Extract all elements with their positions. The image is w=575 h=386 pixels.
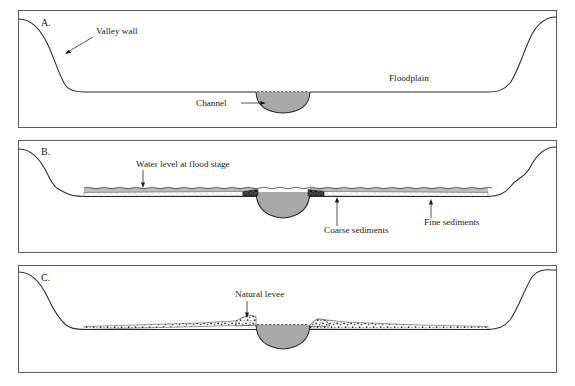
panel-c: C. Natural levee bbox=[19, 266, 557, 373]
label-fine-sediments: Fine sediments bbox=[424, 217, 480, 227]
label-channel: Channel bbox=[196, 98, 227, 108]
panel-b-fine-sediment-right bbox=[324, 192, 488, 197]
panel-b: B. Water level at flood stage Coarse sed… bbox=[19, 141, 557, 253]
arrowhead-fine-sediments bbox=[429, 199, 433, 204]
panel-c-letter: C. bbox=[41, 272, 50, 283]
panel-b-fine-sediment-left bbox=[84, 192, 243, 197]
leader-valley-wall bbox=[66, 37, 93, 53]
panel-c-natural-levee-left bbox=[236, 315, 256, 326]
panel-b-channel-water bbox=[256, 192, 310, 218]
panel-c-sediment-wedge-left bbox=[84, 318, 256, 330]
diagram-canvas: A. Valley wall Channel Floodplain bbox=[0, 0, 575, 386]
label-coarse-sediments: Coarse sediments bbox=[324, 225, 389, 235]
panel-c-ground-profile bbox=[19, 270, 556, 330]
panel-a: A. Valley wall Channel Floodplain bbox=[19, 11, 557, 128]
panel-b-letter: B. bbox=[41, 146, 50, 157]
label-water-level: Water level at flood stage bbox=[136, 159, 230, 169]
panel-c-sediment-wedge-right bbox=[310, 319, 488, 330]
label-floodplain: Floodplain bbox=[389, 73, 429, 83]
arrowhead-water-level bbox=[141, 183, 145, 188]
panel-c-channel-water bbox=[256, 325, 310, 349]
label-valley-wall: Valley wall bbox=[96, 26, 138, 36]
label-natural-levee: Natural levee bbox=[235, 289, 284, 299]
panel-c-frame bbox=[19, 266, 557, 373]
panel-a-letter: A. bbox=[41, 17, 51, 28]
floodplain-diagram: A. Valley wall Channel Floodplain bbox=[0, 0, 575, 386]
arrowhead-coarse-sediments bbox=[335, 197, 339, 202]
